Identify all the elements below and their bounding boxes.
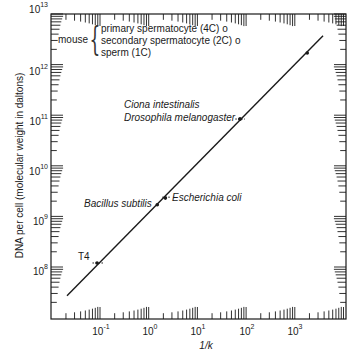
y-axis-label: DNA per cell (molecular weight in dalton… [14,51,25,281]
plot-frame [51,14,346,319]
data-point [155,203,159,207]
x-tick-label: 102 [227,326,267,337]
x-tick-label: 100 [130,326,170,337]
data-point [305,51,309,55]
x-tick-label: 10-1 [81,326,121,337]
t4-label: T4 [78,251,90,262]
brace-icon: { [89,21,100,55]
sperm-label: sperm (1C) [101,47,151,58]
bacillus-label: Bacillus subtilis [84,198,152,209]
x-tick-label: 103 [275,326,315,337]
ciona-label: Ciona intestinalis [124,99,200,110]
y-tick-label: 1013 [8,4,48,15]
mouse-label: mouse [58,34,88,45]
plot-area [0,0,353,361]
secondary-spermatocyte-label: secondary spermatocyte (2C) o [101,35,241,46]
x-tick-label: 101 [178,326,218,337]
drosophila-label: Drosophila melanogaster [124,112,235,123]
primary-spermatocyte-label: primary spermatocyte (4C) o [101,23,228,34]
x-axis-label: 1/k [176,340,236,351]
ecoli-label: Escherichia coli [172,192,241,203]
fit-line [67,36,323,296]
